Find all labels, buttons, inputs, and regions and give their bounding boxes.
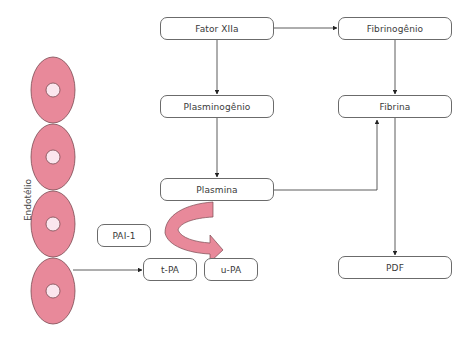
diagram-graphics (0, 0, 472, 342)
endothelium-label: Endotélio (21, 174, 35, 226)
endothelial-cell (31, 57, 75, 123)
endothelium-cells (31, 57, 75, 324)
arrow-plasmina-to-fibrina (274, 120, 377, 190)
endothelial-cell (31, 258, 75, 324)
node-fibrina: Fibrina (338, 95, 452, 118)
node-t-pa: t-PA (143, 258, 197, 281)
node-plasminogenio: Plasminogênio (160, 95, 274, 118)
node-pai-1: PAI-1 (97, 224, 151, 247)
node-plasmina: Plasmina (160, 178, 274, 201)
node-u-pa: u-PA (204, 258, 258, 281)
node-fibrinogenio: Fibrinogênio (338, 17, 452, 40)
curved-arrow-icon (165, 202, 223, 262)
endothelial-cell (31, 124, 75, 190)
endothelial-cell (31, 191, 75, 257)
fibrinolysis-diagram: Endotélio Fator XIIa Fibrinogênio Plasmi… (0, 0, 472, 342)
node-fator-xiia: Fator XIIa (160, 17, 274, 40)
node-pdf: PDF (338, 256, 452, 279)
